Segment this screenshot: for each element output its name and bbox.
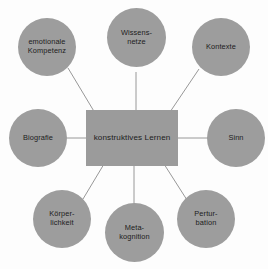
node-perturbation[interactable]: Pertur- bation (177, 190, 235, 248)
node-label-sinn: Sinn (226, 134, 245, 143)
node-label-perturbation: Pertur- bation (192, 210, 219, 227)
node-label-koerperlichkeit: Körper- lichkeit (47, 210, 76, 227)
hub-node-label: konstruktives Lernen (92, 133, 173, 142)
edge-hub-emotionale-kompetenz (68, 68, 95, 113)
edge-hub-kontexte (170, 69, 199, 112)
node-sinn[interactable]: Sinn (207, 109, 265, 167)
node-emotionale-kompetenz[interactable]: emotionale Kompetenz (18, 18, 76, 76)
node-label-wissensnetze: Wissens- netze (119, 29, 154, 46)
node-metakognition[interactable]: Meta- kognition (105, 203, 164, 262)
node-label-kontexte: Kontexte (204, 43, 238, 52)
edge-hub-koerperlichkeit (83, 164, 104, 199)
node-kontexte[interactable]: Kontexte (192, 18, 250, 76)
node-koerperlichkeit[interactable]: Körper- lichkeit (33, 190, 91, 248)
hub-node-konstruktives-lernen[interactable]: konstruktives Lernen (86, 110, 178, 166)
concept-map-diagram: emotionale Kompetenz Wissens- netze Kont… (0, 0, 268, 269)
node-wissensnetze[interactable]: Wissens- netze (107, 8, 166, 67)
node-label-metakognition: Meta- kognition (117, 224, 151, 241)
node-label-biografie: Biografie (21, 134, 55, 143)
node-label-emotionale-kompetenz: emotionale Kompetenz (26, 38, 68, 55)
edge-hub-perturbation (164, 164, 187, 200)
node-biografie[interactable]: Biografie (9, 109, 67, 167)
